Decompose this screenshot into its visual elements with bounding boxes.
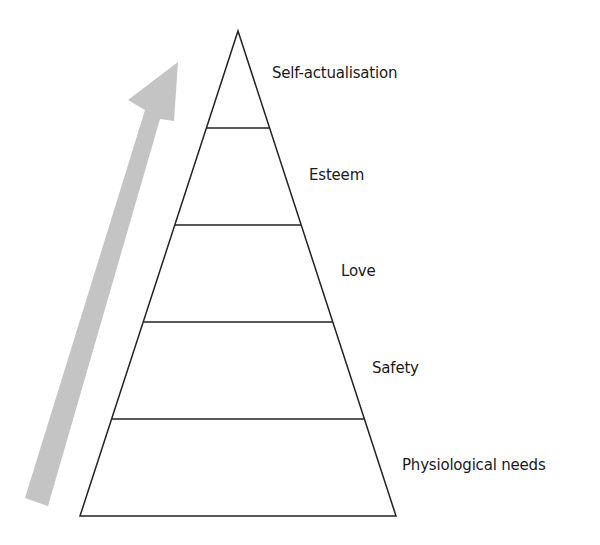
level-label-safety: Safety — [372, 359, 419, 377]
level-label-physiological-needs: Physiological needs — [402, 456, 546, 474]
level-label-self-actualisation: Self-actualisation — [272, 64, 397, 82]
level-label-love: Love — [341, 262, 376, 280]
level-label-esteem: Esteem — [309, 166, 364, 184]
